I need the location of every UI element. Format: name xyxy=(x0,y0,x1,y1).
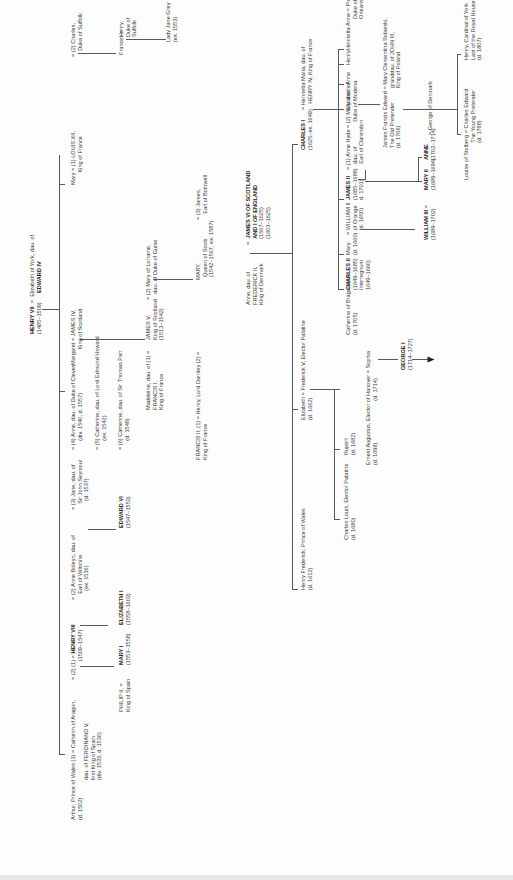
node-elizabeth-i: ELIZABETH I(1558–1603) xyxy=(118,591,131,626)
node-mary-queen-of-scots: MARY, Queen of Scots (1542–1567, ex. 158… xyxy=(195,221,215,280)
node-anne-boleyn: = (2) Anne Boleyn, dau. of Earl of Wilts… xyxy=(70,535,90,600)
node-william-ii-orange: = WILLIAM II of Orange (d. 1650) xyxy=(345,203,365,235)
node-henry-suffolk: Henry, Duke of Suffolk xyxy=(118,18,138,37)
node-catherine-howard: = (5) Catherine, dau. of Lord Edmund How… xyxy=(94,336,107,450)
family-tree-diagram: HENRY VII = Elizabeth of York, dau. of (… xyxy=(0,0,513,880)
node-mary-of-lorraine: = (2) Mary of Lorraine, dau. of Duke of … xyxy=(145,240,158,300)
node-mary-princess-royal: Mary (d. 1660) xyxy=(345,233,358,255)
arrow-down-icon xyxy=(428,357,435,363)
node-catherine-parr: = (6) Catherine, dau. of Sir Thomas Parr… xyxy=(117,350,130,450)
node-anne-of-cleves: = (4) Anne, dau. of Duke of Cleves (div.… xyxy=(70,364,83,450)
node-philip-ii: PHILIP II, = King of Spain xyxy=(118,679,131,712)
node-mary-i: MARY I(1553–1558) xyxy=(118,633,131,665)
node-henrietta-anne: Henrietta Anne = Philip, Duke of Orleans xyxy=(345,0,365,50)
node-henry-frederick: Henry Frederick, Prince of Wales (d. 161… xyxy=(300,508,313,590)
node-elizabeth-stuart: Elizabeth xyxy=(345,87,352,110)
node-william-iii: WILLIAM III = (1689–1702) xyxy=(423,205,436,240)
node-margaret-tudor: Margaret = JAMES IV, King of Scotland xyxy=(70,309,83,365)
node-james-vi-i: = JAMES VI OF SCOTLAND AND I OF ENGLAND … xyxy=(245,171,271,245)
node-charles-ii: CHARLES II (1649–1685) Interregnum 1649–… xyxy=(345,258,371,290)
node-henrietta-maria: = Henrietta Maria, dau. of HENRY IV, Kin… xyxy=(300,39,313,110)
node-george-i: GEORGE I(1714–1727) xyxy=(400,338,413,370)
node-mary-tudor: Mary = (1) LOUIS XII, King of France xyxy=(70,131,83,185)
node-henry-vii: HENRY VII = Elizabeth of York, dau. of (… xyxy=(29,235,42,334)
node-francis-ii: FRANCIS II, (1) = Henry, Lord Darnley (2… xyxy=(195,352,208,460)
node-edward-vi: EDWARD VI(1547–1553) xyxy=(118,496,131,528)
node-james-v: JAMES V, King of Scotland (1513–1542) xyxy=(145,299,165,340)
node-catherine-of-aragon: dau. of FERDINAND V, first King of Spain… xyxy=(83,722,103,780)
node-young-pretender: Louise of Stolberg = Charles Edward The … xyxy=(463,89,483,180)
node-old-pretender: James Francis Edward = Mary Clementina S… xyxy=(382,18,402,148)
node-madeleine: Madeleine, dau. of (1) = FRANCIS I, King… xyxy=(145,351,165,410)
node-arthur: Arthur, Prince of Wales (1) = Catherin o… xyxy=(70,700,83,820)
node-rupert: Rupert (d. 1682) xyxy=(343,433,356,455)
node-henry-viii: = (2) (1) = HENRY VIII (1509–1547) xyxy=(70,624,83,680)
node-jane-seymour: = (3) Jane, dau. of Sir John Seymour (d.… xyxy=(70,459,90,510)
node-charles-i: CHARLES I(1625–ex. 1649) xyxy=(300,109,313,150)
node-anne-stuart: Anne xyxy=(345,72,352,85)
node-henry-stuart: Henry xyxy=(345,50,352,65)
page-edge xyxy=(0,875,513,880)
node-mary-ii: MARY II(1689–1694) xyxy=(423,158,436,190)
node-anne-of-denmark: Anne, dau. of FREDERICK II, King of Denm… xyxy=(245,263,265,305)
node-bothwell: = (3) James, Earl of Bothwell xyxy=(195,175,208,220)
node-elizabeth-bohemia: Elizabeth = Frederick V, Elector Palatin… xyxy=(300,320,313,420)
node-cardinal-york: Henry, Cardinal of York Last of the Roya… xyxy=(463,0,483,60)
node-lady-jane-grey: Lady Jane Grey (ex. 1553) xyxy=(165,3,178,43)
node-james-ii: JAMES II (1685–1688) d. 1701) xyxy=(345,168,365,200)
node-charles-suffolk: = (2) Charles, Duke of Suffolk xyxy=(70,13,83,57)
node-ernest-augustus: Ernest Augustus, Elector of Hanover = So… xyxy=(365,351,378,465)
node-charles-louis: Charles Louis, Elector Palatine (d. 1680… xyxy=(343,464,356,541)
